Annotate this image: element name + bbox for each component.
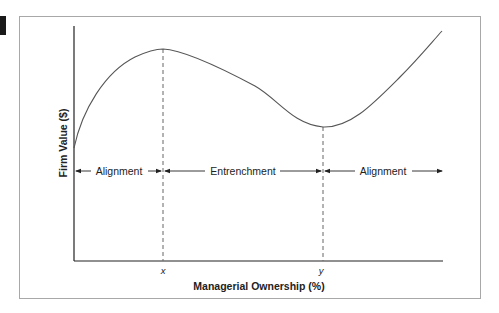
region-label-alignment-right: Alignment [360,165,407,177]
region-label-alignment-left: Alignment [96,165,143,177]
firm-value-curve [74,31,442,148]
y-axis-label: Firm Value ($) [57,109,69,178]
figure-svg: Alignment Entrenchment Alignment x y Man… [0,0,499,313]
x-tick-label-y: y [318,265,325,276]
region-label-entrenchment: Entrenchment [210,165,275,177]
x-tick-label-x: x [160,265,167,276]
x-axis-label: Managerial Ownership (%) [193,280,324,292]
